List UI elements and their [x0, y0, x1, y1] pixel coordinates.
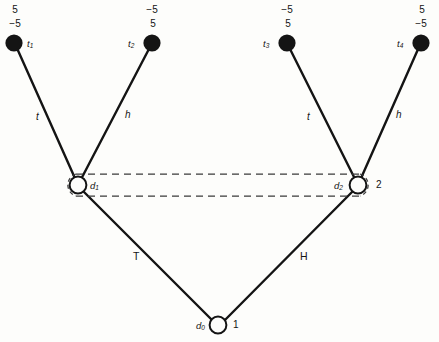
edge-d0-d1	[80, 188, 216, 324]
node-label-t1-sub: 1	[30, 42, 34, 49]
edge-d1-t1	[16, 46, 78, 185]
value-top-t4: 5	[411, 5, 433, 15]
terminal-node-t4	[412, 34, 429, 51]
edge-d2-t3	[289, 47, 358, 185]
player-index-d0: 1	[233, 320, 239, 330]
diagram-graphics	[0, 0, 439, 342]
terminal-node-t2	[143, 34, 160, 51]
node-label-t2: t2	[128, 39, 134, 50]
value-bottom-t1: −5	[2, 19, 28, 29]
node-label-d2: d2	[334, 181, 343, 192]
node-label-t4-sub: 4	[400, 42, 404, 49]
information-set-links	[76, 174, 360, 196]
decision-node-circles	[70, 177, 367, 334]
decision-node-d2	[350, 177, 367, 194]
value-top-t1: 5	[4, 5, 26, 15]
value-top-t2: −5	[139, 5, 165, 15]
node-label-d0-sub: 0	[201, 324, 205, 331]
node-label-t1: t1	[27, 39, 33, 50]
value-top-t3: −5	[274, 5, 300, 15]
edge-label-d0-d2: H	[300, 251, 308, 262]
terminal-node-t3	[278, 34, 295, 51]
node-label-t2-sub: 2	[131, 42, 135, 49]
edge-label-d1-t2: h	[125, 110, 131, 120]
edge-label-d0-d1: T	[133, 251, 139, 262]
player-index-d2: 2	[376, 180, 382, 190]
edge-d1-t2	[78, 47, 150, 185]
edge-label-d2-t4: h	[396, 110, 402, 120]
terminal-node-t1	[5, 34, 22, 51]
value-bottom-t4: −5	[408, 19, 434, 29]
edge-label-d1-t1: t	[36, 112, 39, 122]
node-label-t4: t4	[397, 39, 403, 50]
edge-label-d2-t3: t	[307, 112, 310, 122]
node-label-d1: d1	[90, 181, 99, 192]
value-bottom-t2: 5	[142, 19, 164, 29]
edge-d2-t4	[358, 47, 419, 185]
decision-node-d0	[210, 317, 227, 334]
node-label-d1-sub: 1	[95, 184, 99, 191]
decision-node-d1	[70, 177, 87, 194]
node-label-d2-sub: 2	[339, 184, 343, 191]
edge-d0-d2	[221, 188, 356, 324]
terminal-node-dots	[5, 34, 429, 51]
node-label-t3: t3	[263, 39, 269, 50]
diagram-canvas: 5 −5 −5 5 −5 5 5 −5 t1 t2 t3 t4 d1 d2 d0…	[0, 0, 439, 342]
node-label-d0: d0	[196, 321, 205, 332]
node-label-t3-sub: 3	[266, 42, 270, 49]
value-bottom-t3: 5	[277, 19, 299, 29]
